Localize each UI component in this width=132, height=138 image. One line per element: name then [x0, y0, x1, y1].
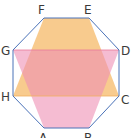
vertex-label-b: B: [84, 131, 92, 138]
trapezoid-gdba: [13, 50, 119, 128]
vertex-label-g: G: [1, 44, 10, 58]
vertex-label-c: C: [121, 93, 129, 107]
octagon-diagram: F E G D H C A B: [0, 0, 132, 138]
vertex-label-h: H: [1, 90, 10, 104]
vertex-label-e: E: [84, 3, 92, 17]
vertex-label-f: F: [38, 3, 45, 17]
vertex-label-a: A: [39, 131, 48, 138]
vertex-label-d: D: [121, 44, 130, 58]
